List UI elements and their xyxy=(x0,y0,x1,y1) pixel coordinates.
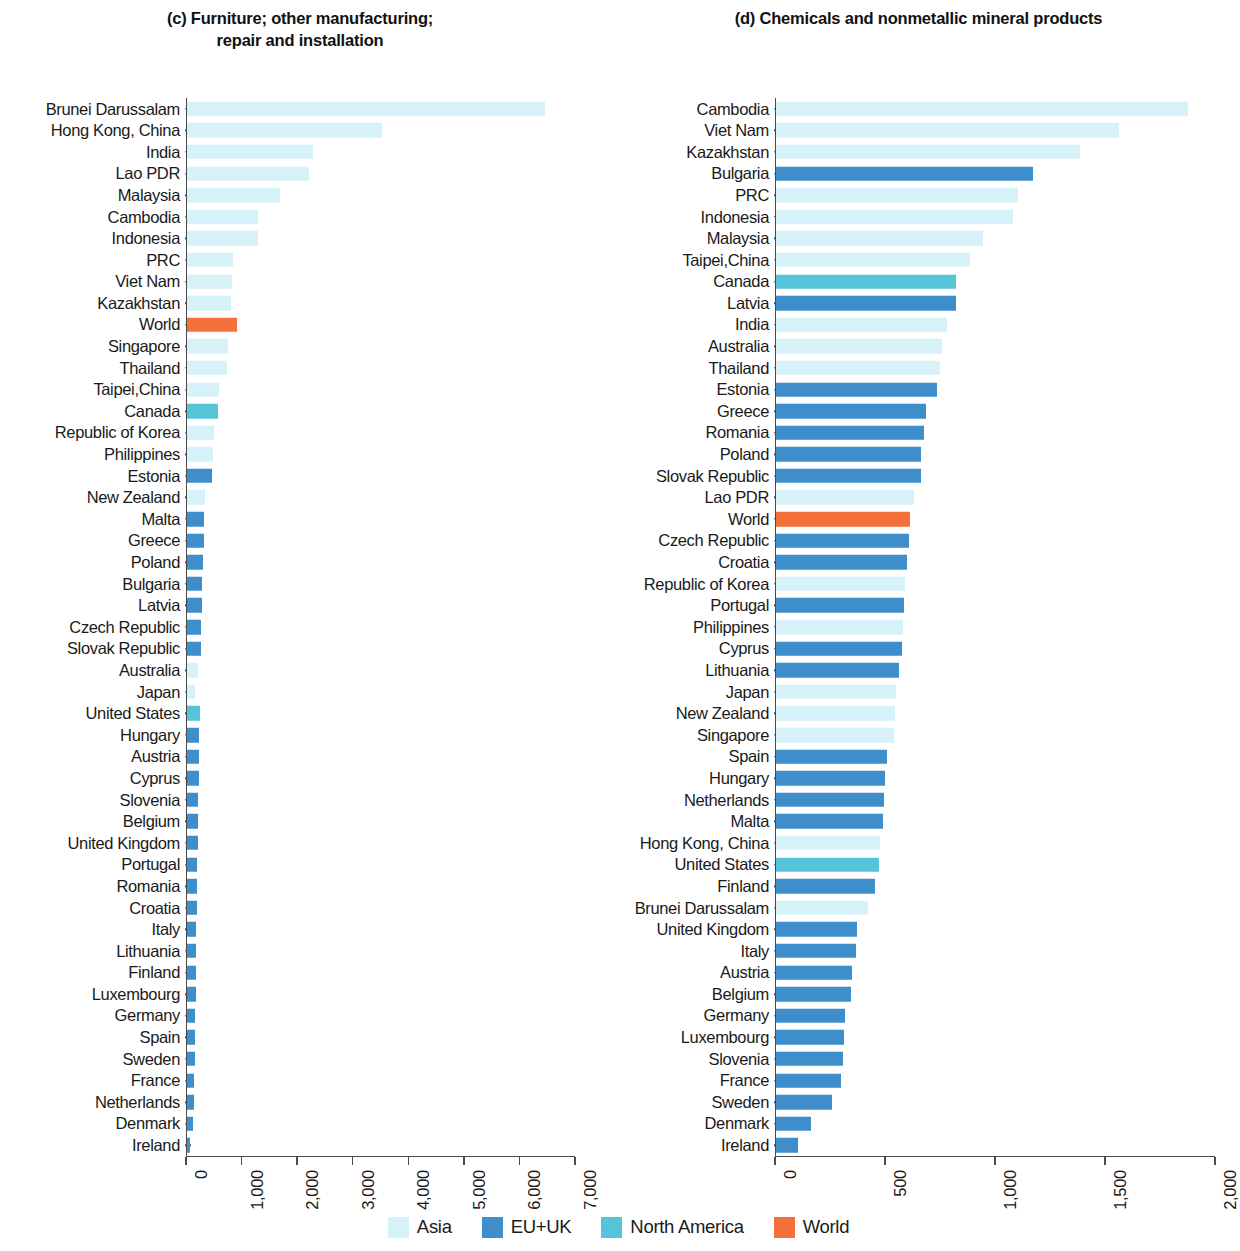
bar-row: New Zealand xyxy=(0,487,600,509)
bar xyxy=(187,210,258,225)
bar-row: Greece xyxy=(0,530,600,552)
bar-track xyxy=(186,465,600,487)
category-label: Estonia xyxy=(0,468,186,485)
legend-swatch-world xyxy=(774,1217,795,1238)
bar-track xyxy=(186,832,600,854)
x-tick xyxy=(1104,1157,1105,1165)
bar-track xyxy=(186,120,600,142)
category-label: Malta xyxy=(0,511,186,528)
bar xyxy=(187,339,228,354)
bar-track xyxy=(186,897,600,919)
category-label: Latvia xyxy=(600,295,775,312)
bar-track xyxy=(775,962,1237,984)
bar-track xyxy=(775,1135,1237,1157)
bar xyxy=(187,447,213,462)
bar-row: Spain xyxy=(0,1027,600,1049)
x-tick-label: 1,000 xyxy=(1001,1170,1020,1210)
bar xyxy=(776,145,1080,160)
category-label: Greece xyxy=(600,403,775,420)
category-label: Austria xyxy=(600,964,775,981)
bar-track xyxy=(186,983,600,1005)
bar xyxy=(776,814,883,829)
category-label: Hungary xyxy=(600,770,775,787)
bar xyxy=(776,836,880,851)
category-label: Estonia xyxy=(600,381,775,398)
x-tick xyxy=(463,1157,464,1165)
bar-row: Cambodia xyxy=(600,98,1237,120)
category-label: Finland xyxy=(600,878,775,895)
bar-track xyxy=(775,595,1237,617)
bar xyxy=(187,361,227,376)
category-label: Austria xyxy=(0,748,186,765)
bar-track xyxy=(186,400,600,422)
category-label: United Kingdom xyxy=(600,921,775,938)
bar-track xyxy=(186,379,600,401)
bar xyxy=(776,490,914,505)
category-label: Japan xyxy=(0,684,186,701)
bar-row: Poland xyxy=(0,551,600,573)
bar-row: United States xyxy=(600,854,1237,876)
category-label: Portugal xyxy=(600,597,775,614)
category-label: Cambodia xyxy=(600,101,775,118)
bar xyxy=(187,404,218,419)
bar-row: Belgium xyxy=(0,811,600,833)
x-tick xyxy=(994,1157,995,1165)
bar-row: Netherlands xyxy=(600,789,1237,811)
bar-row: Slovak Republic xyxy=(0,638,600,660)
bar xyxy=(187,944,196,959)
bar xyxy=(187,641,201,656)
category-label: Poland xyxy=(600,446,775,463)
category-label: Canada xyxy=(0,403,186,420)
bar-track xyxy=(775,832,1237,854)
bar-row: France xyxy=(0,1070,600,1092)
category-label: United Kingdom xyxy=(0,835,186,852)
bar-track xyxy=(186,1005,600,1027)
bar-row: Cyprus xyxy=(600,638,1237,660)
category-label: Slovak Republic xyxy=(600,468,775,485)
bar-track xyxy=(775,703,1237,725)
bar-track xyxy=(186,767,600,789)
bar-row: Latvia xyxy=(0,595,600,617)
bar xyxy=(776,425,924,440)
bar xyxy=(187,1073,194,1088)
bar-row: Czech Republic xyxy=(600,530,1237,552)
bar-track xyxy=(775,1005,1237,1027)
category-label: Croatia xyxy=(600,554,775,571)
bar xyxy=(187,274,232,289)
bar-row: Cambodia xyxy=(0,206,600,228)
bar xyxy=(776,598,904,613)
bar-row: Estonia xyxy=(0,465,600,487)
bar-row: United Kingdom xyxy=(0,832,600,854)
bar xyxy=(776,382,937,397)
category-label: Australia xyxy=(0,662,186,679)
legend-item: World xyxy=(774,1216,849,1238)
category-label: France xyxy=(600,1072,775,1089)
x-tick xyxy=(296,1157,297,1165)
legend-label: World xyxy=(803,1216,849,1238)
bar-row: Romania xyxy=(0,875,600,897)
bar-row: Malta xyxy=(600,811,1237,833)
bar xyxy=(187,512,204,527)
bar-row: Japan xyxy=(0,681,600,703)
bar-row: Kazakhstan xyxy=(0,292,600,314)
x-tick-label: 1,500 xyxy=(1111,1170,1130,1210)
bar-track xyxy=(775,1027,1237,1049)
category-label: Luxembourg xyxy=(0,986,186,1003)
bar-track xyxy=(186,141,600,163)
bar xyxy=(776,166,1033,181)
bar xyxy=(776,620,903,635)
legend-label: EU+UK xyxy=(511,1216,572,1238)
bar-track xyxy=(775,789,1237,811)
bar xyxy=(187,425,214,440)
bar xyxy=(776,793,884,808)
bar-row: Thailand xyxy=(600,357,1237,379)
bar-row: India xyxy=(0,141,600,163)
bar-track xyxy=(186,940,600,962)
bar-row: Austria xyxy=(0,746,600,768)
category-label: Kazakhstan xyxy=(0,295,186,312)
bar-track xyxy=(186,184,600,206)
bar-track xyxy=(186,206,600,228)
bar xyxy=(187,620,201,635)
legend-label: Asia xyxy=(417,1216,452,1238)
